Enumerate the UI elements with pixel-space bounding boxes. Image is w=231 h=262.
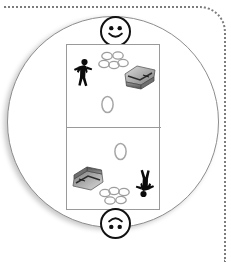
scene-panel-top-contents	[67, 45, 161, 127]
person-silhouette-icon	[73, 57, 95, 87]
person-silhouette-icon	[133, 169, 155, 199]
smiley-face-icon	[102, 18, 129, 45]
scene-panel-top	[67, 45, 161, 128]
treasure-chest-icon	[71, 166, 105, 193]
single-ring-icon	[113, 142, 128, 161]
treasure-chest-icon	[123, 63, 157, 90]
single-ring-icon	[100, 95, 115, 114]
scene-card	[66, 44, 160, 210]
smiley-face-marker-top	[100, 16, 131, 47]
smiley-face-icon	[102, 210, 129, 237]
smiley-face-marker-bottom	[100, 208, 131, 239]
scene-panel-bottom	[67, 128, 161, 211]
scene-panel-bottom-contents	[67, 128, 161, 211]
